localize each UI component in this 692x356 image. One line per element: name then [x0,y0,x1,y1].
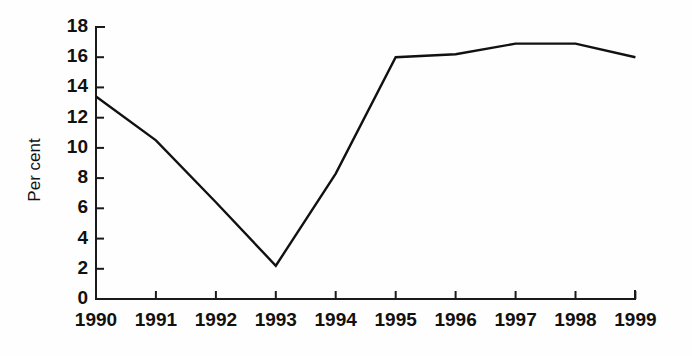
y-tick-label-12: 12 [67,106,88,127]
x-tick-label-1997: 1997 [494,309,536,330]
y-tick-label-18: 18 [67,15,88,36]
x-tick-label-1995: 1995 [375,309,418,330]
x-tick-label-1994: 1994 [315,309,358,330]
y-tick-label-16: 16 [67,45,88,66]
y-tick-label-6: 6 [77,196,88,217]
y-tick-label-10: 10 [67,136,88,157]
x-tick-label-1990: 1990 [75,309,117,330]
y-tick-label-0: 0 [77,287,88,308]
y-axis-title: Per cent [25,138,44,202]
y-tick-label-4: 4 [77,227,88,248]
x-tick-label-1999: 1999 [614,309,656,330]
chart-container: Per cent 0 2 4 6 8 10 12 14 [0,0,692,356]
x-tick-label-1998: 1998 [554,309,596,330]
x-tick-label-1993: 1993 [255,309,297,330]
x-tick-label-1996: 1996 [434,309,476,330]
y-tick-label-2: 2 [77,257,88,278]
y-tick-label-8: 8 [77,166,88,187]
line-chart: Per cent 0 2 4 6 8 10 12 14 [0,0,692,356]
y-tick-label-14: 14 [67,75,89,96]
x-tick-label-1992: 1992 [195,309,237,330]
x-tick-label-1991: 1991 [135,309,178,330]
